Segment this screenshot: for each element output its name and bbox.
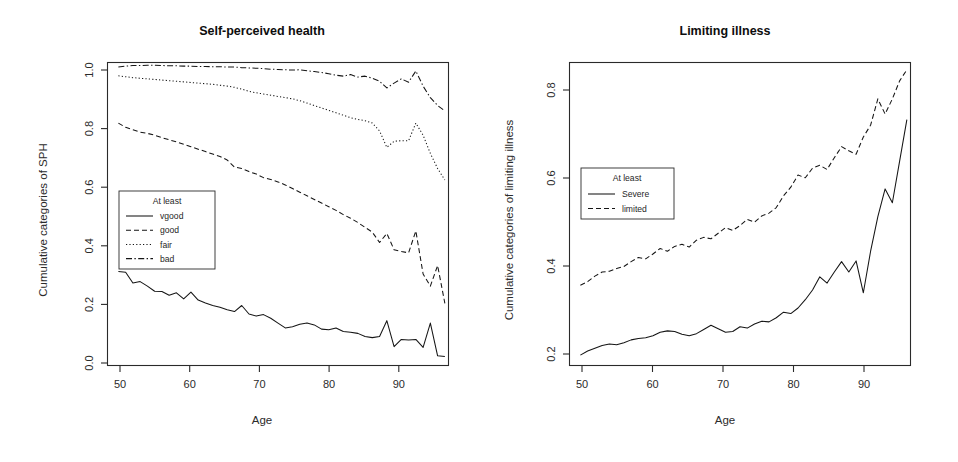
y-tick-labels-left: 1.0 0.8 0.6 0.4 0.2 0.0: [83, 62, 95, 370]
x-tick-label: 90: [858, 378, 870, 390]
y-axis-label-right: Cumulative categories of limiting illnes…: [503, 119, 515, 320]
y-tick-label: 0.4: [545, 258, 557, 273]
x-tick-label: 50: [114, 378, 126, 390]
series-line-bad: [118, 65, 444, 111]
chart-svg-left: Self-perceived health Age Cumulative cat…: [0, 0, 500, 462]
y-axis-ticks-right: [563, 90, 570, 354]
y-tick-label: 0.2: [83, 297, 95, 312]
legend-label-good: good: [160, 225, 179, 235]
legend-title-left: At least: [153, 196, 182, 206]
x-tick-label: 90: [393, 378, 405, 390]
x-axis-label-left: Age: [252, 414, 272, 426]
y-tick-label: 0.2: [545, 346, 557, 361]
x-tick-labels-left: 50 60 70 80 90: [114, 378, 405, 390]
legend-title-right: At least: [613, 173, 642, 183]
y-tick-labels-right: 0.8 0.6 0.4 0.2: [545, 82, 557, 361]
x-tick-label: 80: [787, 378, 799, 390]
chart-title-right: Limiting illness: [680, 24, 771, 38]
x-tick-label: 50: [576, 378, 588, 390]
y-tick-label: 0.8: [83, 121, 95, 136]
y-tick-label: 0.0: [83, 355, 95, 370]
y-tick-label: 0.6: [83, 180, 95, 195]
x-tick-labels-right: 50 60 70 80 90: [576, 378, 870, 390]
legend-label-limited: limited: [622, 204, 647, 214]
legend-label-fair: fair: [160, 240, 172, 250]
y-tick-label: 0.8: [545, 82, 557, 97]
x-tick-label: 70: [717, 378, 729, 390]
y-axis-label-left: Cumulative categories of SPH: [37, 143, 49, 296]
legend-left: At least vgoodgoodfairbad: [119, 191, 215, 269]
figure-container: Self-perceived health Age Cumulative cat…: [0, 0, 958, 462]
series-line-vgood: [118, 272, 444, 357]
legend-label-Severe: Severe: [622, 189, 649, 199]
chart-panel-limiting-illness: Limiting illness Age Cumulative categori…: [470, 0, 958, 462]
y-axis-ticks-left: [101, 70, 108, 363]
x-tick-label: 60: [646, 378, 658, 390]
x-axis-label-right: Age: [715, 414, 735, 426]
y-tick-label: 1.0: [83, 62, 95, 77]
series-line-fair: [118, 76, 444, 180]
legend-label-bad: bad: [160, 254, 175, 264]
chart-title-left: Self-perceived health: [199, 24, 325, 38]
legend-right: At least Severelimited: [581, 168, 674, 219]
chart-panel-self-perceived-health: Self-perceived health Age Cumulative cat…: [0, 0, 500, 462]
y-tick-label: 0.6: [545, 170, 557, 185]
x-tick-label: 80: [323, 378, 335, 390]
legend-label-vgood: vgood: [160, 211, 184, 221]
x-axis-ticks-left: [120, 366, 399, 373]
x-axis-ticks-right: [582, 366, 864, 373]
series-line-Severe: [580, 120, 906, 355]
chart-svg-right: Limiting illness Age Cumulative categori…: [470, 0, 958, 462]
y-tick-label: 0.4: [83, 238, 95, 253]
x-tick-label: 70: [253, 378, 265, 390]
x-tick-label: 60: [184, 378, 196, 390]
